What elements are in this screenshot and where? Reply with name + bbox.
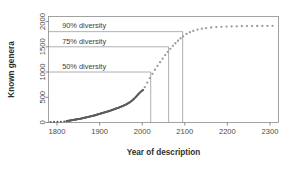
chart-figure: 0500100015002000 18001900200021002200230… [0,0,298,169]
data-point-projected [225,25,227,27]
y-tick-label: 500 [38,91,47,104]
y-tick-label: 0 [38,120,47,124]
data-point-projected [146,81,148,83]
data-point-projected [151,73,153,75]
data-point-projected [261,25,263,27]
data-point-projected [167,51,169,53]
data-point-projected [189,31,191,33]
data-point-projected [174,42,176,44]
data-point-historical [142,89,144,91]
data-point-projected [177,40,179,42]
data-point-projected [159,61,161,63]
data-point-projected [144,86,146,88]
data-point-projected [266,25,268,27]
data-point-projected [156,65,158,67]
data-point-projected [271,25,273,27]
data-point-projected [220,26,222,28]
annotation-label-diversity-75: 75% diversity [62,37,106,46]
y-tick-label: 1500 [38,38,47,55]
y-tick-label: 1000 [38,64,47,81]
data-point-historical [56,121,58,123]
data-point-projected [154,69,156,71]
data-point-projected [201,28,203,30]
data-point-projected [182,35,184,37]
data-point-projected [169,48,171,50]
x-tick-label: 1800 [49,127,66,136]
x-tick-label: 2200 [219,127,236,136]
data-point-projected [196,28,198,30]
data-point-projected [241,25,243,27]
annotation-label-diversity-90: 90% diversity [62,21,106,30]
data-point-historical [63,120,65,122]
data-point-projected [256,25,258,27]
x-tick-label: 2300 [262,127,279,136]
data-point-projected [210,26,212,28]
data-point-projected [251,25,253,27]
x-tick-label: 1900 [91,127,108,136]
data-point-projected [192,30,194,32]
x-tick-label: 2000 [134,127,151,136]
y-tick-label: 2000 [38,13,47,30]
data-point-projected [164,54,166,56]
data-point-projected [205,27,207,29]
data-point-projected [172,45,174,47]
y-axis-title: Known genera [7,41,16,98]
data-point-projected [236,25,238,27]
x-tick-label: 2100 [176,127,193,136]
x-axis-title: Year of description [127,148,201,157]
data-point-historical [60,121,62,123]
known-genera-projection-chart: 0500100015002000 18001900200021002200230… [0,0,298,169]
data-point-projected [231,25,233,27]
data-point-projected [246,25,248,27]
annotation-label-diversity-50: 50% diversity [62,62,106,71]
data-point-projected [215,26,217,28]
data-point-historical [53,121,55,123]
data-point-projected [179,37,181,39]
data-point-historical [50,121,52,123]
data-point-projected [149,77,151,79]
data-point-projected [162,58,164,60]
data-point-projected [185,33,187,35]
